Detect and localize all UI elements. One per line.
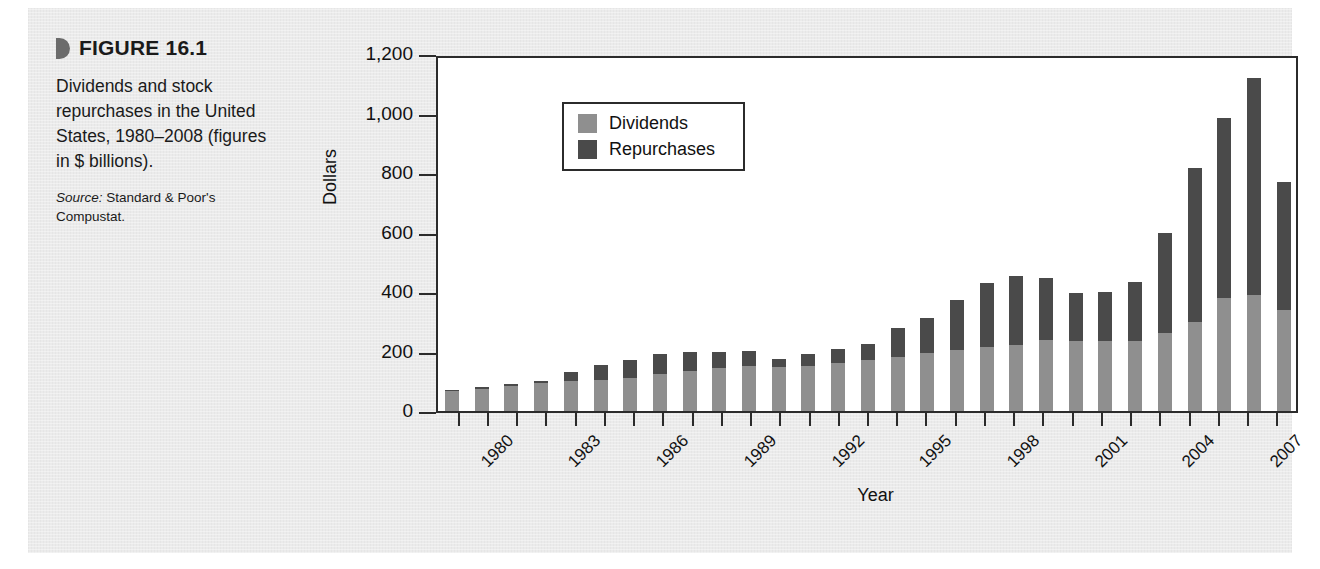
x-tick-2008 xyxy=(1276,413,1278,426)
bar-segment-repurchases xyxy=(1009,276,1023,345)
bar-segment-dividends xyxy=(653,374,667,411)
bar-1982 xyxy=(504,384,518,411)
x-axis-title-wrap: Year xyxy=(328,485,1308,506)
x-tick-1993 xyxy=(838,413,840,426)
x-tick-1990 xyxy=(750,413,752,426)
bar-segment-repurchases xyxy=(950,300,964,349)
bar-1986 xyxy=(623,360,637,411)
bar-segment-repurchases xyxy=(712,352,726,369)
bar-segment-dividends xyxy=(1217,298,1231,411)
legend-item-dividends: Dividends xyxy=(578,113,715,134)
legend-label: Repurchases xyxy=(609,139,715,160)
chart-legend: DividendsRepurchases xyxy=(562,102,745,171)
bar-segment-repurchases xyxy=(831,349,845,364)
bar-segment-repurchases xyxy=(1217,118,1231,298)
bar-1981 xyxy=(475,387,489,411)
x-tick-label-2007: 2007 xyxy=(1266,431,1307,472)
bar-segment-dividends xyxy=(801,366,815,411)
y-tick-mark xyxy=(419,174,436,176)
y-tick-label: 800 xyxy=(381,162,413,184)
y-tick-mark xyxy=(419,234,436,236)
bar-segment-dividends xyxy=(891,357,905,411)
bar-1984 xyxy=(564,372,578,411)
x-tick-1994 xyxy=(867,413,869,426)
bar-2002 xyxy=(1098,292,1112,411)
bar-segment-repurchases xyxy=(861,344,875,360)
bar-1994 xyxy=(861,344,875,411)
x-tick-1997 xyxy=(955,413,957,426)
bar-segment-repurchases xyxy=(1069,293,1083,341)
bar-segment-dividends xyxy=(1039,340,1053,411)
figure-description: Dividends and stock repurchases in the U… xyxy=(56,74,271,173)
y-tick-label: 1,200 xyxy=(365,43,413,65)
bar-segment-repurchases xyxy=(742,351,756,366)
bar-1989 xyxy=(712,352,726,411)
x-tick-2003 xyxy=(1130,413,1132,426)
x-tick-1988 xyxy=(692,413,694,426)
bar-1992 xyxy=(801,354,815,411)
bar-segment-dividends xyxy=(1247,295,1261,411)
bar-segment-repurchases xyxy=(594,365,608,380)
figure-heading: FIGURE 16.1 xyxy=(56,36,306,60)
bar-segment-repurchases xyxy=(653,354,667,373)
x-tick-label-2004: 2004 xyxy=(1178,431,1219,472)
bar-segment-dividends xyxy=(1158,333,1172,411)
bar-1993 xyxy=(831,349,845,411)
x-tick-1982 xyxy=(516,413,518,426)
bar-segment-dividends xyxy=(594,380,608,411)
bar-1999 xyxy=(1009,276,1023,411)
bar-segment-dividends xyxy=(950,350,964,411)
bar-2003 xyxy=(1128,282,1142,411)
legend-swatch-icon xyxy=(578,140,597,159)
x-tick-2007 xyxy=(1247,413,1249,426)
y-tick-mark xyxy=(419,353,436,355)
x-tick-2006 xyxy=(1218,413,1220,426)
figure-source: Source: Standard & Poor's Compustat. xyxy=(56,189,278,225)
bar-1985 xyxy=(594,365,608,411)
bar-2004 xyxy=(1158,233,1172,411)
x-tick-1984 xyxy=(575,413,577,426)
bar-segment-dividends xyxy=(564,381,578,411)
bar-2001 xyxy=(1069,293,1083,411)
y-tick-label: 200 xyxy=(381,341,413,363)
y-tick-mark xyxy=(419,293,436,295)
bar-segment-repurchases xyxy=(772,359,786,367)
bar-2000 xyxy=(1039,278,1053,411)
x-tick-1999 xyxy=(1013,413,1015,426)
y-axis-title: Dollars xyxy=(320,149,341,205)
y-tick-mark xyxy=(419,412,436,414)
legend-swatch-icon xyxy=(578,114,597,133)
x-tick-2000 xyxy=(1042,413,1044,426)
y-tick-mark xyxy=(419,115,436,117)
bar-segment-repurchases xyxy=(623,360,637,378)
figure-caption-block: FIGURE 16.1 Dividends and stock repurcha… xyxy=(56,36,306,226)
bar-segment-dividends xyxy=(1009,345,1023,411)
bar-segment-repurchases xyxy=(801,354,815,365)
bar-segment-dividends xyxy=(980,347,994,411)
bar-segment-dividends xyxy=(1188,322,1202,411)
bar-segment-dividends xyxy=(1069,341,1083,411)
x-tick-1985 xyxy=(604,413,606,426)
bar-segment-repurchases xyxy=(1247,78,1261,295)
y-tick-label: 600 xyxy=(381,222,413,244)
bar-1987 xyxy=(653,354,667,411)
figure-panel: FIGURE 16.1 Dividends and stock repurcha… xyxy=(28,8,1292,553)
x-tick-1983 xyxy=(545,413,547,426)
y-tick-label: 0 xyxy=(402,400,413,422)
bar-segment-repurchases xyxy=(1039,278,1053,340)
x-tick-2004 xyxy=(1159,413,1161,426)
bar-1997 xyxy=(950,300,964,411)
bar-1998 xyxy=(980,283,994,411)
bar-segment-repurchases xyxy=(1098,292,1112,341)
x-tick-1981 xyxy=(487,413,489,426)
legend-label: Dividends xyxy=(609,113,688,134)
x-tick-label-1983: 1983 xyxy=(564,431,605,472)
figure-source-label: Source: xyxy=(56,190,103,205)
x-tick-2002 xyxy=(1101,413,1103,426)
bar-segment-dividends xyxy=(1277,310,1291,411)
bar-2005 xyxy=(1188,168,1202,411)
bar-1995 xyxy=(891,328,905,411)
bar-segment-dividends xyxy=(445,391,459,411)
y-tick-label: 1,000 xyxy=(365,103,413,125)
figure-marker-icon xyxy=(56,38,70,59)
